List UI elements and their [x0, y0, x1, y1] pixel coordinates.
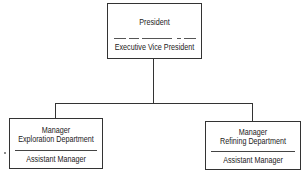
dashed-divider — [129, 38, 139, 39]
refining-assistant-manager: Assistant Manager — [212, 156, 295, 166]
refining-manager-box: Manager Refining Department Assistant Ma… — [205, 121, 301, 170]
connector-horizontal — [55, 103, 253, 104]
exploration-assistant-manager: Assistant Manager — [16, 155, 97, 165]
president-title: President — [114, 18, 196, 28]
divider-line — [211, 151, 295, 152]
connector-vertical-right — [252, 103, 253, 122]
exploration-manager-line2: Exploration Department — [16, 135, 97, 145]
dashed-divider — [177, 38, 181, 39]
executive-vice-president-title: Executive Vice President — [114, 43, 196, 53]
refining-manager-line2: Refining Department — [212, 137, 295, 147]
divider-line — [15, 150, 97, 151]
connector-vertical-top — [153, 59, 154, 104]
president-box: President Executive Vice President — [107, 3, 202, 59]
dashed-divider — [184, 38, 196, 39]
dashed-divider — [142, 38, 172, 39]
scan-speck — [4, 152, 6, 154]
connector-vertical-left — [55, 103, 56, 119]
dashed-divider — [114, 38, 126, 39]
exploration-manager-box: Manager Exploration Department Assistant… — [9, 118, 103, 169]
